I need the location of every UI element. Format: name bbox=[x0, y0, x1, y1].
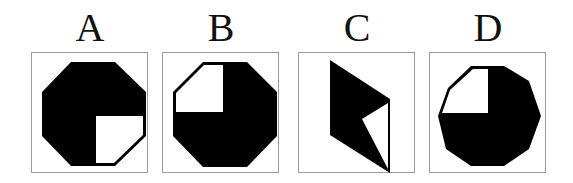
option-panel-b[interactable] bbox=[162, 52, 279, 173]
option-label-d: D bbox=[429, 6, 547, 50]
option-panel-c[interactable] bbox=[298, 52, 415, 173]
option-panel-a[interactable] bbox=[31, 52, 148, 173]
option-label-c: C bbox=[298, 6, 416, 50]
notched-parallelogram-icon bbox=[299, 53, 416, 174]
decagon-upper-left-white-icon bbox=[430, 53, 547, 174]
octagon-upper-left-white-icon bbox=[163, 53, 280, 174]
option-panel-d[interactable] bbox=[429, 52, 546, 173]
option-label-a: A bbox=[31, 6, 149, 50]
option-label-b: B bbox=[162, 6, 280, 50]
octagon-lower-right-white-icon bbox=[32, 53, 149, 174]
